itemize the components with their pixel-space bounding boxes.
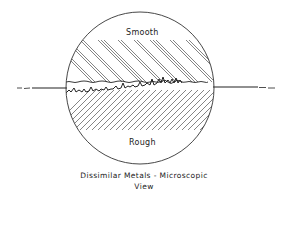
smooth-surface-edge: [66, 80, 208, 83]
rough-label: Rough: [129, 138, 156, 147]
smooth-label: Smooth: [126, 28, 159, 37]
contact-interface-line: [17, 87, 275, 89]
caption-line-2: View: [0, 181, 288, 192]
diagram-caption: Dissimilar Metals - Microscopic View: [0, 170, 288, 192]
caption-line-1: Dissimilar Metals - Microscopic: [0, 170, 288, 181]
rough-surface-edge: [66, 77, 182, 93]
rough-metal-surface: [50, 90, 246, 130]
